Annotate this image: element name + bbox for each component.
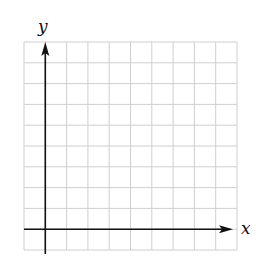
coordinate-plane: x y (0, 0, 262, 256)
grid (24, 42, 237, 250)
axes (24, 42, 233, 254)
y-axis-label: y (37, 16, 48, 36)
x-axis-label: x (241, 218, 251, 238)
